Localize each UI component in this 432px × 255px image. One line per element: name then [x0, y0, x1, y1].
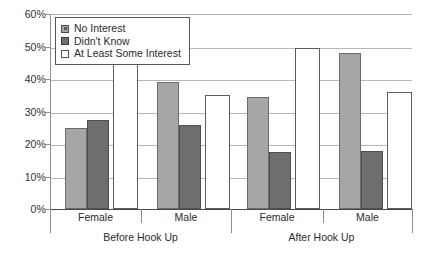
bar-after-female-at-least-some-interest [295, 48, 320, 209]
x-sub-label-after-male: Male [323, 212, 412, 223]
bar-before-male-no-interest [157, 82, 179, 209]
y-tick-label-60: 60% [10, 9, 46, 19]
y-tick-label-0: 0% [10, 204, 46, 214]
legend-item-no-interest: No Interest [61, 23, 181, 35]
bar-after-female-no-interest [247, 97, 269, 209]
x-sub-label-before-female: Female [50, 212, 141, 223]
chart-legend: No Interest Didn't Know At Least Some In… [55, 17, 190, 65]
legend-item-didnt-know: Didn't Know [61, 35, 181, 47]
x-sub-label-before-male: Male [141, 212, 231, 223]
bar-before-male-at-least-some-interest [205, 95, 230, 209]
legend-swatch-at-least-some-interest-icon [61, 50, 69, 58]
y-tick-label-30: 30% [10, 107, 46, 117]
bar-before-male-didnt-know [179, 125, 201, 210]
bar-after-male-no-interest [339, 53, 361, 209]
legend-label-no-interest: No Interest [74, 23, 125, 34]
legend-label-at-least-some-interest: At Least Some Interest [74, 48, 181, 59]
bar-after-female-didnt-know [269, 152, 291, 209]
bar-after-male-at-least-some-interest [387, 92, 412, 209]
y-tick-label-40: 40% [10, 74, 46, 84]
x-group-label-after-hook-up: After Hook Up [231, 232, 412, 243]
y-tick-label-20: 20% [10, 139, 46, 149]
y-tick-label-50: 50% [10, 42, 46, 52]
legend-swatch-didnt-know-icon [61, 37, 69, 45]
bar-after-male-didnt-know [361, 151, 383, 210]
x-divider-right-edge [412, 209, 413, 233]
bar-before-female-no-interest [65, 128, 87, 209]
legend-swatch-no-interest-icon [61, 25, 69, 33]
legend-item-at-least-some-interest: At Least Some Interest [61, 48, 181, 60]
bar-chart: 60% 50% 40% 30% 20% 10% 0% [0, 0, 432, 255]
bar-before-female-at-least-some-interest [113, 56, 138, 209]
x-sub-label-after-female: Female [231, 212, 323, 223]
y-tick-label-10: 10% [10, 172, 46, 182]
legend-label-didnt-know: Didn't Know [74, 36, 130, 47]
bar-before-female-didnt-know [87, 120, 109, 209]
x-group-label-before-hook-up: Before Hook Up [50, 232, 231, 243]
y-axis: 60% 50% 40% 30% 20% 10% 0% [0, 0, 46, 255]
